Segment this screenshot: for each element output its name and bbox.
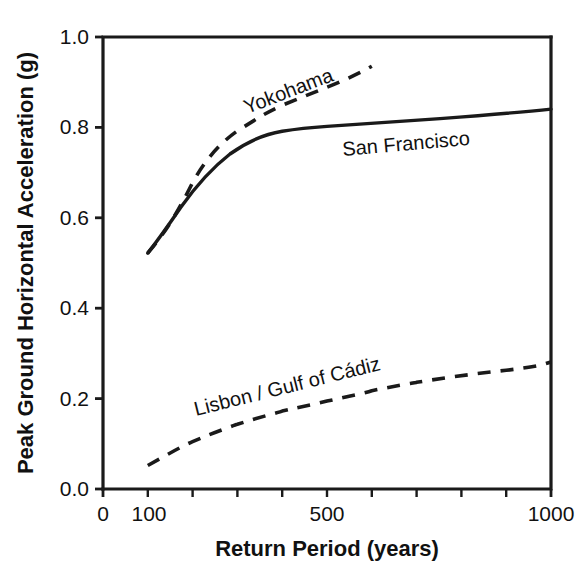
chart-figure: 0.0 0.2 0.4 0.6 0.8 1.0 0 100 500 100 — [0, 0, 581, 583]
series-label-san-francisco: San Francisco — [341, 127, 470, 160]
y-tick-label-3: 0.6 — [60, 206, 89, 229]
y-tick-label-2: 0.4 — [60, 296, 90, 319]
plot-frame — [103, 37, 551, 489]
series-annotations: Yokohama San Francisco Lisbon / Gulf of … — [192, 63, 471, 420]
chart-svg: 0.0 0.2 0.4 0.6 0.8 1.0 0 100 500 100 — [0, 0, 581, 583]
x-tick-label-0: 0 — [97, 502, 109, 525]
y-tick-label-5: 1.0 — [60, 25, 89, 48]
x-axis-title: Return Period (years) — [215, 536, 439, 561]
y-tick-label-0: 0.0 — [60, 477, 89, 500]
y-tick-label-1: 0.2 — [60, 387, 89, 410]
series-line-san-francisco — [148, 109, 551, 253]
x-tick-label-1000: 1000 — [528, 502, 575, 525]
y-axis-title: Peak Ground Horizontal Acceleration (g) — [13, 52, 38, 474]
x-axis-tick-labels: 0 100 500 1000 — [97, 502, 574, 525]
x-tick-label-500: 500 — [309, 502, 344, 525]
series-label-yokohama: Yokohama — [241, 63, 337, 117]
x-tick-label-100: 100 — [131, 502, 166, 525]
y-axis-tick-labels: 0.0 0.2 0.4 0.6 0.8 1.0 — [60, 25, 90, 500]
y-tick-label-4: 0.8 — [60, 115, 89, 138]
